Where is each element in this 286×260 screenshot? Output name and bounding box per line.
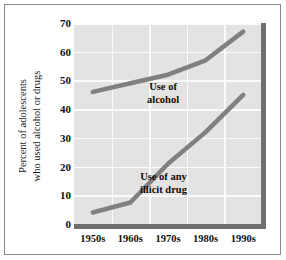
- x-axis-tick-1970s: 1970s: [155, 233, 180, 245]
- y-axis-tick-70: 70: [45, 18, 71, 29]
- annotation-use-of-illicit-drug: Use of any illicit drug: [140, 171, 187, 196]
- y-axis-tick-10: 10: [45, 190, 71, 201]
- y-axis-tick-30: 30: [45, 132, 71, 143]
- y-axis-tick-labels: 010203040506070: [45, 21, 71, 221]
- x-axis-tick-labels: 1950s1960s1970s1980s1990s: [74, 233, 262, 249]
- annotation-drug-line-2: illicit drug: [140, 184, 187, 197]
- x-axis-tick-1950s: 1950s: [80, 233, 105, 245]
- figure-frame: Percent of adolescents who used alcohol …: [4, 4, 281, 255]
- chart-figure: Percent of adolescents who used alcohol …: [0, 0, 286, 260]
- y-axis-tick-20: 20: [45, 161, 71, 172]
- plot-area: Use of alcohol Use of any illicit drug: [74, 23, 262, 224]
- annotation-use-of-alcohol: Use of alcohol: [147, 81, 179, 106]
- y-axis-tick-50: 50: [45, 75, 71, 86]
- x-axis-baseline-bar: [74, 224, 266, 229]
- y-axis-right-bar: [261, 23, 266, 229]
- y-axis-title-line-2: who used alcohol or drugs: [30, 70, 44, 181]
- y-axis-tick-0: 0: [45, 219, 71, 230]
- y-axis-tick-60: 60: [45, 46, 71, 57]
- x-axis-tick-1980s: 1980s: [193, 233, 218, 245]
- y-axis-tick-40: 40: [45, 104, 71, 115]
- annotation-alcohol-line-2: alcohol: [147, 94, 179, 107]
- y-axis-title-line-1: Percent of adolescents: [16, 70, 30, 181]
- x-axis-tick-1990s: 1990s: [231, 233, 256, 245]
- y-axis-title: Percent of adolescents who used alcohol …: [13, 23, 47, 228]
- annotation-alcohol-line-1: Use of: [147, 81, 179, 94]
- x-axis-tick-1960s: 1960s: [118, 233, 143, 245]
- annotation-drug-line-1: Use of any: [140, 171, 187, 184]
